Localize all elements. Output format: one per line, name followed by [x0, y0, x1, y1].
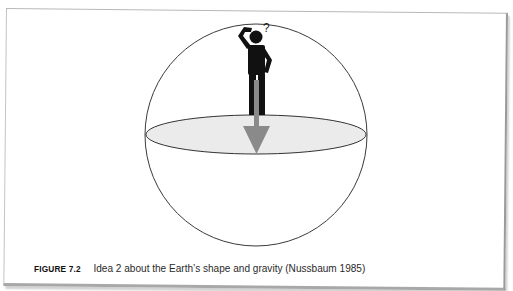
question-mark: ? — [263, 21, 270, 35]
figure-caption: FIGURE 7.2Idea 2 about the Earth’s shape… — [34, 262, 365, 274]
earth-gravity-diagram: ? — [0, 0, 513, 291]
figure-label: FIGURE 7.2 — [34, 264, 81, 274]
figure-caption-text: Idea 2 about the Earth’s shape and gravi… — [93, 262, 365, 274]
